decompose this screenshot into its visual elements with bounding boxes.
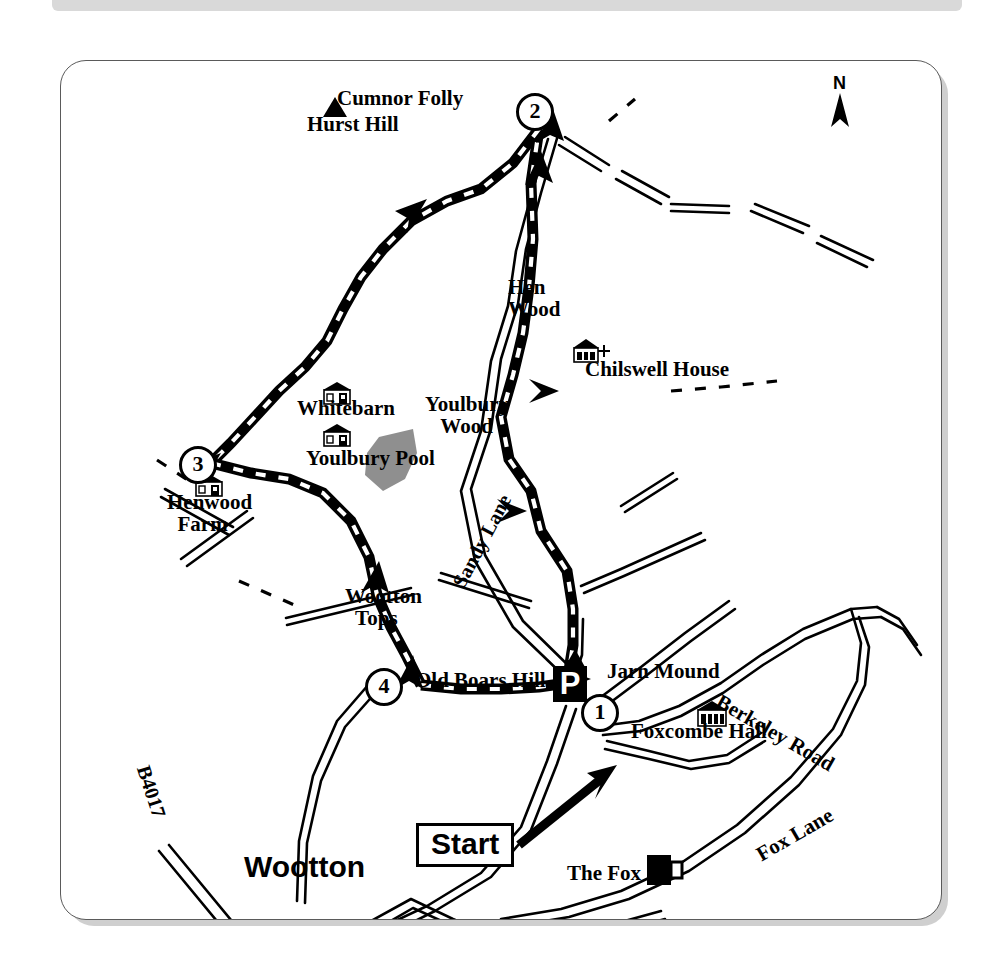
footpath-chilswell-east	[671, 381, 777, 391]
label-whitebarn: Whitebarn	[297, 398, 395, 420]
road-loop-w2	[399, 709, 576, 919]
page-top-shadow-band	[52, 0, 962, 11]
footpath-se-of-3	[239, 581, 299, 607]
track-ne-seg1	[559, 145, 601, 171]
start-label-box: Start	[416, 823, 514, 867]
lane-cross-c1	[581, 533, 701, 586]
lane-cross-a2	[439, 580, 529, 608]
road-loop-w1	[391, 706, 566, 919]
track-ne-seg4	[622, 171, 669, 197]
label-wootton: Wootton	[244, 851, 365, 882]
waypoint-marker-2[interactable]: 2	[516, 93, 554, 131]
label-hurst-hill: Hurst Hill	[307, 114, 399, 136]
route-arrow-hen-wood	[529, 379, 559, 403]
track-ne-seg6	[671, 204, 729, 206]
waypoint-marker-3[interactable]: 3	[179, 446, 217, 484]
track-ne-seg3	[616, 179, 661, 204]
label-youlbury-pool: Youlbury Pool	[306, 448, 435, 470]
map-page: Cumnor Folly Hurst Hill Hen Wood Chilswe…	[0, 0, 1004, 970]
map-frame: Cumnor Folly Hurst Hill Hen Wood Chilswe…	[60, 60, 942, 920]
beer-mug-icon-the-fox	[647, 855, 682, 885]
label-hen-wood: Hen Wood	[508, 277, 561, 321]
start-pointer-arrow	[519, 765, 617, 845]
track-ne-seg2	[565, 137, 609, 165]
north-arrow-icon	[827, 93, 853, 135]
building-icon-youlbury	[323, 424, 351, 446]
road-b4017-1	[159, 851, 221, 919]
track-ne-seg5	[671, 211, 729, 213]
road-b4017-2	[169, 845, 231, 919]
north-label: N	[833, 73, 846, 94]
lane-cross-c2	[584, 540, 705, 593]
label-old-boars-hill: Old Boars Hill	[415, 670, 546, 692]
label-wootton-tops: Wootton Tops	[345, 586, 422, 630]
label-chilswell-house: Chilswell House	[585, 359, 729, 381]
label-jarn-mound: Jarn Mound	[607, 661, 720, 683]
lane-cross-d1	[621, 473, 673, 506]
road-jarn-n2	[607, 609, 735, 705]
label-cumnor-folly: Cumnor Folly	[337, 88, 463, 110]
label-henwood-farm: Henwood Farm	[167, 492, 252, 536]
parking-marker[interactable]: P	[553, 666, 587, 702]
lane-cross-d2	[625, 479, 677, 512]
label-the-fox: The Fox	[567, 863, 641, 885]
label-youlbury-wood: Youlbury Wood	[425, 394, 509, 438]
waypoint-marker-4[interactable]: 4	[365, 668, 403, 706]
footpath-ne-of-2	[609, 99, 635, 121]
